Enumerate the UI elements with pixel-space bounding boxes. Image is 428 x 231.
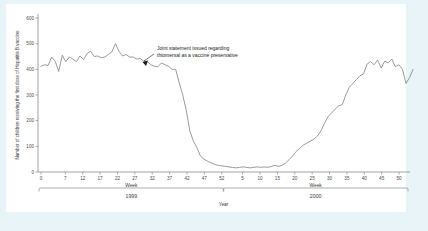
x-tick-label: 22 bbox=[115, 176, 121, 181]
year-brackets-group bbox=[39, 188, 408, 192]
ticks-group: 0100200300400500600071217222732374247525… bbox=[26, 16, 402, 181]
x-tick-label: 25 bbox=[310, 176, 316, 181]
x-tick-label: 47 bbox=[202, 176, 208, 181]
annotation-arrow-icon bbox=[144, 54, 154, 61]
year-bracket-2000 bbox=[223, 188, 408, 192]
x-tick-label: 52 bbox=[219, 176, 225, 181]
x-tick-label: 32 bbox=[150, 176, 156, 181]
annotation-line-2: thiomersal as a vaccine preservative bbox=[157, 52, 238, 58]
year-bracket-1999 bbox=[39, 188, 224, 192]
y-tick-label: 500 bbox=[26, 41, 34, 46]
x-tick-label: 30 bbox=[327, 176, 333, 181]
x-tick-label: 42 bbox=[184, 176, 190, 181]
x-tick-label: 17 bbox=[98, 176, 104, 181]
y-tick-label: 200 bbox=[26, 118, 34, 123]
x-tick-label: 40 bbox=[362, 176, 368, 181]
annotation-arrowhead-icon bbox=[143, 61, 149, 67]
figure-container: 0100200300400500600071217222732374247525… bbox=[0, 0, 428, 231]
x-axis-title-2000: Week bbox=[310, 183, 323, 188]
x-tick-label: 20 bbox=[292, 176, 298, 181]
year-label-2000: 2000 bbox=[310, 193, 322, 199]
y-tick-label: 600 bbox=[26, 16, 34, 21]
x-tick-label: 35 bbox=[344, 176, 350, 181]
x-tick-label: 45 bbox=[379, 176, 385, 181]
data-series-group bbox=[41, 44, 413, 168]
axes-group bbox=[38, 14, 410, 172]
x-tick-label: 37 bbox=[167, 176, 173, 181]
x-tick-label: 27 bbox=[132, 176, 138, 181]
line-chart: 0100200300400500600071217222732374247525… bbox=[0, 0, 428, 231]
x-tick-label: 15 bbox=[275, 176, 281, 181]
x-tick-label: 5 bbox=[241, 176, 244, 181]
x-tick-label: 0 bbox=[40, 176, 43, 181]
y-tick-label: 100 bbox=[26, 144, 34, 149]
annotation-group: Joint statement issued regardingthiomers… bbox=[143, 45, 239, 66]
x-axis-title-1999: Week bbox=[125, 183, 138, 188]
year-label-1999: 1999 bbox=[126, 193, 138, 199]
y-axis-title: Number of children receiving the first d… bbox=[15, 30, 20, 159]
annotation-line-1: Joint statement issued regarding bbox=[157, 45, 229, 51]
y-tick-label: 300 bbox=[26, 93, 34, 98]
y-tick-label: 0 bbox=[31, 170, 34, 175]
group-axis-title-year: Year bbox=[219, 202, 229, 207]
x-tick-label: 10 bbox=[257, 176, 263, 181]
y-tick-label: 400 bbox=[26, 67, 34, 72]
x-tick-label: 50 bbox=[396, 176, 402, 181]
x-tick-label: 12 bbox=[80, 176, 86, 181]
x-tick-label: 7 bbox=[64, 176, 67, 181]
series-line-hepb bbox=[41, 44, 413, 168]
